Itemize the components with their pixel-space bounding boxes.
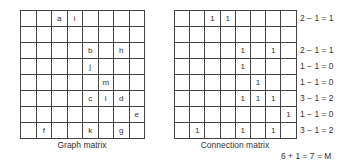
graph-matrix-cell: a <box>52 11 68 27</box>
row-equation: 1 − 1 = 0 <box>300 77 334 87</box>
connection-matrix-cell: 1 <box>220 11 235 27</box>
graph-matrix-cell <box>21 43 37 59</box>
connection-matrix-cell <box>220 107 235 123</box>
connection-matrix-cell <box>175 43 190 59</box>
connection-matrix-cell <box>175 107 190 123</box>
connection-matrix-cell: 1 <box>190 123 205 139</box>
connection-matrix-cell <box>281 59 296 75</box>
connection-matrix-cell: 1 <box>266 123 281 139</box>
graph-matrix-cell <box>67 27 83 43</box>
connection-matrix-cell <box>281 123 296 139</box>
connection-matrix-cell <box>235 27 250 43</box>
connection-matrix-caption: Connection matrix <box>174 140 296 150</box>
connection-matrix-cell <box>281 27 296 43</box>
graph-matrix-cell <box>129 11 145 27</box>
connection-matrix-cell <box>235 107 250 123</box>
graph-matrix-row: m <box>21 75 145 91</box>
connection-matrix-cell <box>220 43 235 59</box>
graph-matrix-cell: b <box>83 43 99 59</box>
graph-matrix-cell <box>21 27 37 43</box>
connection-matrix-cell: 1 <box>266 43 281 59</box>
graph-matrix-cell <box>36 107 52 123</box>
graph-matrix-cell: d <box>114 91 130 107</box>
connection-matrix-cell <box>205 123 220 139</box>
connection-matrix-cell <box>190 75 205 91</box>
graph-matrix-cell <box>52 123 68 139</box>
connection-matrix-cell <box>220 123 235 139</box>
graph-matrix-cell <box>21 107 37 123</box>
connection-matrix-cell <box>205 91 220 107</box>
graph-matrix-cell: k <box>83 123 99 139</box>
graph-matrix-caption: Graph matrix <box>20 140 144 150</box>
connection-matrix-row: 1 <box>175 75 297 91</box>
connection-matrix-cell <box>205 59 220 75</box>
connection-matrix-cell <box>205 75 220 91</box>
connection-matrix-cell <box>235 75 250 91</box>
graph-matrix-cell: h <box>114 43 130 59</box>
connection-matrix-cell: 1 <box>281 107 296 123</box>
connection-matrix-cell <box>175 11 190 27</box>
graph-matrix-cell <box>129 43 145 59</box>
graph-matrix-cell <box>114 75 130 91</box>
connection-matrix-cell <box>266 59 281 75</box>
graph-matrix-cell <box>36 11 52 27</box>
connection-matrix-cell <box>205 107 220 123</box>
graph-matrix-cell <box>98 123 114 139</box>
connection-matrix-cell <box>281 43 296 59</box>
graph-matrix-cell <box>114 59 130 75</box>
connection-matrix-cell <box>220 27 235 43</box>
row-equation: 1 − 1 = 0 <box>300 61 334 71</box>
graph-matrix-cell: f <box>36 123 52 139</box>
connection-matrix-cell <box>175 59 190 75</box>
connection-matrix-cell <box>190 59 205 75</box>
graph-matrix-cell: g <box>114 123 130 139</box>
graph-matrix-cell <box>83 27 99 43</box>
graph-matrix-cell <box>98 59 114 75</box>
graph-matrix-cell <box>36 75 52 91</box>
connection-matrix-cell: 1 <box>250 75 265 91</box>
graph-matrix-cell <box>67 43 83 59</box>
connection-matrix-cell <box>266 75 281 91</box>
connection-matrix: 1111111111111 <box>174 10 297 139</box>
graph-matrix: aibhjmcldefkg <box>20 10 145 139</box>
graph-matrix-cell <box>83 107 99 123</box>
graph-matrix-cell <box>52 75 68 91</box>
graph-matrix-cell <box>114 27 130 43</box>
graph-matrix-cell <box>129 123 145 139</box>
graph-matrix-cell: c <box>83 91 99 107</box>
graph-matrix-cell <box>21 91 37 107</box>
connection-matrix-cell <box>190 107 205 123</box>
graph-matrix-row: ai <box>21 11 145 27</box>
graph-matrix-cell <box>52 59 68 75</box>
connection-matrix-cell <box>250 27 265 43</box>
graph-matrix-cell <box>98 107 114 123</box>
graph-matrix-cell: i <box>67 11 83 27</box>
connection-matrix-cell <box>250 107 265 123</box>
connection-matrix-cell <box>250 11 265 27</box>
graph-matrix-cell: m <box>98 75 114 91</box>
connection-matrix-row: 11 <box>175 43 297 59</box>
connection-matrix-cell <box>235 11 250 27</box>
connection-matrix-cell <box>281 91 296 107</box>
graph-matrix-cell <box>36 43 52 59</box>
connection-matrix-cell: 1 <box>205 11 220 27</box>
graph-matrix-cell <box>67 107 83 123</box>
connection-matrix-row: 1 <box>175 107 297 123</box>
connection-matrix-cell <box>190 43 205 59</box>
connection-matrix-cell <box>175 123 190 139</box>
graph-matrix-cell: e <box>129 107 145 123</box>
graph-matrix-cell: j <box>83 59 99 75</box>
graph-matrix-cell <box>21 123 37 139</box>
connection-matrix-row <box>175 27 297 43</box>
graph-matrix-cell <box>83 11 99 27</box>
graph-matrix-cell <box>67 123 83 139</box>
graph-matrix-cell <box>98 11 114 27</box>
graph-matrix-cell <box>114 11 130 27</box>
row-equation: 1 − 1 = 0 <box>300 109 334 119</box>
graph-matrix-row: bh <box>21 43 145 59</box>
connection-matrix-cell <box>175 27 190 43</box>
graph-matrix-cell <box>98 27 114 43</box>
graph-matrix-cell <box>67 91 83 107</box>
connection-matrix-cell: 1 <box>235 123 250 139</box>
graph-matrix-cell <box>129 27 145 43</box>
